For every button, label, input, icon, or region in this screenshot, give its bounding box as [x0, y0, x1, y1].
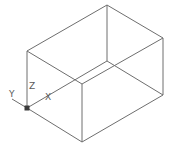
edge-bottom-back-left: [27, 61, 107, 108]
ucs-origin-marker: [25, 106, 30, 111]
drawing-canvas[interactable]: Z Y X: [0, 0, 170, 149]
ucs-y-label: Y: [8, 89, 15, 99]
edge-top-left-front: [27, 51, 82, 84]
edge-bottom-front-right: [82, 95, 163, 142]
edge-bottom-left-front: [27, 108, 82, 142]
edge-top-right-front: [82, 38, 163, 84]
edge-top-back-left: [27, 5, 107, 51]
ucs-z-label: Z: [29, 81, 35, 91]
edge-top-back-right: [107, 5, 163, 38]
ucs-x-label: X: [45, 92, 51, 102]
edge-bottom-back-right: [107, 61, 163, 95]
wireframe-box: Z Y X: [0, 0, 170, 149]
